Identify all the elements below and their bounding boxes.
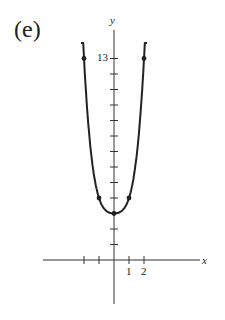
x-tick-label-1: 1 — [126, 265, 132, 277]
y-axis-label: y — [110, 14, 115, 26]
x-tick-label-2: 2 — [141, 265, 147, 277]
y-tick-label-13: 13 — [97, 51, 108, 63]
x-axis-label: x — [202, 254, 207, 266]
graph — [0, 0, 225, 320]
axes — [43, 30, 200, 304]
